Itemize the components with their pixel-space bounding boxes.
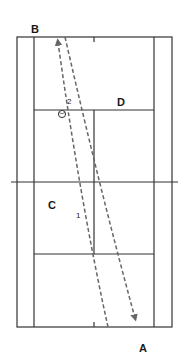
shot-number-2: 2 bbox=[67, 98, 71, 106]
shot-number-1: 1 bbox=[76, 212, 80, 220]
player-label-a: A bbox=[139, 343, 147, 354]
player-label-d: D bbox=[117, 97, 125, 108]
tennis-court bbox=[0, 0, 190, 361]
player-label-b: B bbox=[31, 24, 39, 35]
court-lines bbox=[11, 37, 178, 327]
shot-path-to-a bbox=[65, 37, 135, 318]
player-label-c: C bbox=[48, 200, 56, 211]
tennis-ball-icon bbox=[58, 110, 65, 117]
